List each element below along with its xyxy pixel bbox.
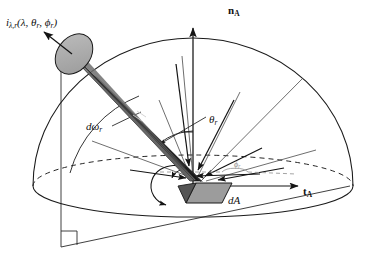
domega-subscript: r (99, 125, 102, 134)
radiance-args-close: ) (53, 16, 57, 28)
phi-angle-label: ϕr (234, 160, 240, 169)
right-angle-marker (61, 231, 77, 245)
phi-subscript: r (238, 163, 240, 169)
area-element-label: dA (228, 194, 240, 206)
radiance-label: iλ,r(λ, θr, ϕr) (6, 16, 57, 30)
incident-arrows (130, 64, 284, 180)
differential-area-patch (178, 183, 232, 203)
solid-angle-label: dωr (86, 120, 102, 134)
meridian-ray-4 (206, 150, 316, 181)
solid-angle-indicator (70, 96, 141, 173)
theta-subscript: r (214, 118, 217, 127)
tangent-subscript: A (307, 190, 312, 199)
area-symbol: dA (228, 194, 240, 206)
radiance-hemisphere-diagram: iλ,r(λ, θr, ϕr) nA tA dA θr dωr ϕr (0, 0, 389, 267)
radiance-subscript: λ,r (9, 21, 17, 30)
tangent-vector-label: tA (303, 185, 312, 199)
incident-arrow-2 (198, 100, 234, 170)
incident-arrow-6 (196, 174, 260, 176)
diagram-canvas (0, 0, 389, 267)
domega-symbol: dω (86, 120, 99, 132)
radiance-args: (λ, θ (17, 16, 36, 28)
normal-vector-label: nA (228, 4, 240, 18)
reflected-beam-cylinder (44, 27, 203, 182)
normal-subscript: A (234, 9, 239, 18)
radiance-args-mid: , ϕ (39, 16, 50, 28)
theta-angle-label: θr (209, 113, 217, 127)
meridian-ray-3 (200, 78, 303, 182)
